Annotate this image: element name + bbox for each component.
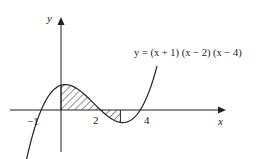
- tick-label-minus-1: −1: [27, 115, 39, 127]
- x-axis-label: x: [217, 115, 223, 127]
- equation-label: y = (x + 1) (x − 2) (x − 4): [134, 47, 242, 59]
- tick-label-2: 2: [93, 114, 99, 126]
- cubic-graph: y x −1 2 4 y = (x + 1) (x − 2) (x − 4): [0, 0, 262, 159]
- y-axis-label: y: [46, 12, 52, 24]
- cubic-curve: [24, 66, 157, 159]
- y-axis-arrow-icon: [58, 17, 65, 25]
- tick-label-4: 4: [144, 114, 150, 126]
- x-axis-arrow-icon: [218, 107, 226, 114]
- shaded-area: [61, 85, 120, 123]
